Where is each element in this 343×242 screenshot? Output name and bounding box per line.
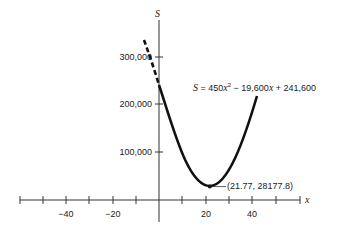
x-tick-label-m20: −20 bbox=[105, 209, 120, 219]
y-tick-label-300000: 300,000 bbox=[119, 52, 152, 62]
curve-dashed-segment bbox=[144, 40, 159, 85]
y-axis-label: S bbox=[155, 8, 160, 19]
parabola-chart: S x 300,000 200,000 100,000 −40 −20 20 4… bbox=[0, 0, 343, 242]
equation-label: S = 450x2 − 19,600x + 241,600 bbox=[193, 82, 316, 93]
vertex-point bbox=[208, 185, 212, 189]
x-tick-label-20: 20 bbox=[201, 209, 211, 219]
x-tick-label-40: 40 bbox=[247, 209, 257, 219]
parabola-solid bbox=[159, 85, 257, 186]
y-tick-label-200000: 200,000 bbox=[119, 99, 152, 109]
y-tick-label-100000: 100,000 bbox=[119, 147, 152, 157]
x-tick-label-m40: −40 bbox=[58, 209, 73, 219]
vertex-label: (21.77, 28177.8) bbox=[227, 181, 293, 191]
x-axis-label: x bbox=[304, 194, 310, 205]
